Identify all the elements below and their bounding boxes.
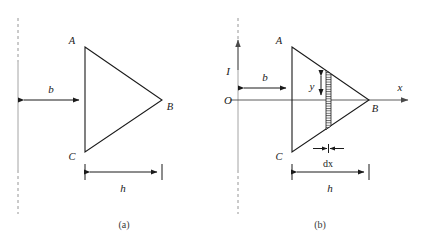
panel-b-axis-i-label: I	[225, 65, 231, 77]
panel-a-label-h: h	[120, 182, 126, 194]
panel-a-vertex-b-label: B	[167, 101, 174, 112]
panel-b-vertex-c-label: C	[275, 151, 283, 162]
technical-diagram: A B C b h (a)	[0, 0, 421, 247]
panel-b: A B C I O x b y dx h (b)	[224, 18, 408, 231]
panel-a-label-b: b	[48, 83, 54, 95]
panel-a-vertex-a-label: A	[68, 35, 76, 46]
panel-b-caption: (b)	[314, 219, 326, 231]
panel-b-label-b: b	[262, 71, 268, 83]
panel-b-origin-label: O	[224, 94, 232, 106]
panel-b-axis-x-label: x	[397, 81, 403, 93]
panel-a-vertex-c-label: C	[68, 151, 76, 162]
panel-b-label-h: h	[327, 182, 333, 194]
panel-a-caption: (a)	[118, 219, 129, 231]
panel-b-dimension-dx	[313, 144, 344, 153]
panel-b-vertex-b-label: B	[372, 103, 379, 114]
panel-a-triangle	[85, 47, 162, 152]
panel-b-vertex-a-label: A	[275, 35, 283, 46]
panel-a-dimension-h	[85, 164, 162, 180]
panel-a: A B C b h (a)	[18, 18, 174, 231]
figure-container: A B C b h (a)	[0, 0, 421, 247]
differential-strip	[326, 71, 331, 130]
panel-b-label-dx: dx	[323, 158, 333, 169]
panel-b-label-y: y	[309, 80, 315, 92]
